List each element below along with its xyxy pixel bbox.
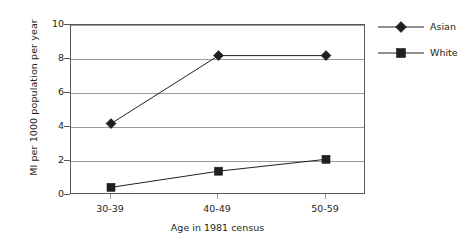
data-point-asian-30-39 xyxy=(106,119,116,129)
x-tick-label-40-49: 40-49 xyxy=(172,203,262,214)
y-tick-label-6: 6 xyxy=(36,87,64,97)
x-tick-mark-30-39 xyxy=(110,194,111,199)
y-tick-label-0: 0 xyxy=(36,189,64,199)
y-tick-label-4: 4 xyxy=(36,121,64,131)
chart-figure: MI per 1000 population per year 10 8 6 4… xyxy=(0,0,466,248)
legend-label-asian: Asian xyxy=(430,21,456,32)
data-point-white-50-59 xyxy=(322,155,330,163)
x-tick-mark-50-59 xyxy=(325,194,326,199)
data-point-white-30-39 xyxy=(107,183,115,191)
square-marker-icon xyxy=(378,44,424,62)
chart-legend: Asian White xyxy=(378,18,466,70)
data-point-asian-40-49 xyxy=(214,51,224,61)
plot-area xyxy=(70,24,365,194)
x-axis-title: Age in 1981 census xyxy=(70,222,365,233)
y-tick-label-10: 10 xyxy=(36,19,64,29)
data-point-asian-50-59 xyxy=(321,51,331,61)
series-line-asian xyxy=(111,56,326,124)
x-tick-label-30-39: 30-39 xyxy=(65,203,155,214)
data-point-white-40-49 xyxy=(215,167,223,175)
series-layer xyxy=(71,25,366,195)
y-tick-mark-0 xyxy=(64,194,70,195)
y-tick-label-2: 2 xyxy=(36,155,64,165)
diamond-marker-icon xyxy=(378,18,424,36)
x-tick-mark-40-49 xyxy=(217,194,218,199)
legend-item-white: White xyxy=(378,44,466,70)
y-tick-label-8: 8 xyxy=(36,53,64,63)
legend-item-asian: Asian xyxy=(378,18,466,44)
x-tick-label-50-59: 50-59 xyxy=(280,203,370,214)
legend-label-white: White xyxy=(430,47,458,58)
